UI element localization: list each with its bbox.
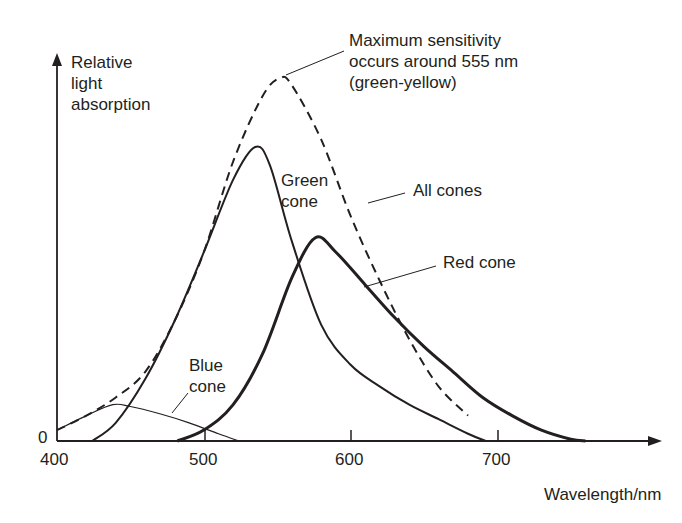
red-cone-curve (177, 237, 585, 441)
blue-label-line-1: Blue (189, 355, 226, 376)
all-cones-label: All cones (413, 180, 482, 201)
blue-cone-curve (57, 404, 239, 441)
max-note-line-3: (green-yellow) (349, 72, 518, 93)
red-cone-label: Red cone (443, 252, 516, 273)
x-tick-400: 400 (40, 450, 68, 470)
x-tick-600: 600 (335, 450, 363, 470)
x-axis-arrow-icon (648, 436, 662, 446)
x-axis-label: Wavelength/nm (544, 484, 661, 505)
y-axis-label: Relative light absorption (71, 52, 150, 115)
y-label-line-1: Relative (71, 52, 150, 73)
y-label-line-2: light (71, 73, 150, 94)
blue-cone-label: Blue cone (189, 355, 226, 397)
x-tick-500: 500 (189, 450, 217, 470)
max-sensitivity-note: Maximum sensitivity occurs around 555 nm… (349, 30, 518, 93)
y-axis-arrow-icon (52, 53, 62, 66)
green-label-line-1: Green (281, 170, 328, 191)
y-label-line-3: absorption (71, 94, 150, 115)
green-label-line-2: cone (281, 191, 328, 212)
max-note-line-1: Maximum sensitivity (349, 30, 518, 51)
max-note-line-2: occurs around 555 nm (349, 51, 518, 72)
max-note-leader (286, 51, 344, 75)
all-cones-leader (368, 193, 405, 203)
green-cone-label: Green cone (281, 170, 328, 212)
all-cones-curve (57, 77, 468, 430)
blue-label-line-2: cone (189, 376, 226, 397)
blue-cone-leader (172, 393, 188, 413)
y-tick-zero: 0 (38, 428, 47, 448)
x-tick-700: 700 (482, 450, 510, 470)
